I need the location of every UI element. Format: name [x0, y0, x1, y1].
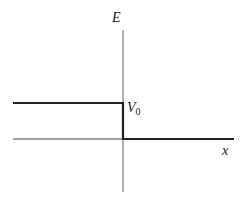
y-axis-label: E [111, 10, 121, 25]
potential-curve [13, 103, 234, 139]
potential-step-diagram: E V0 x [0, 0, 246, 201]
step-height-subscript: 0 [136, 106, 141, 117]
step-height-label: V0 [127, 100, 141, 117]
x-axis-label: x [221, 143, 229, 158]
